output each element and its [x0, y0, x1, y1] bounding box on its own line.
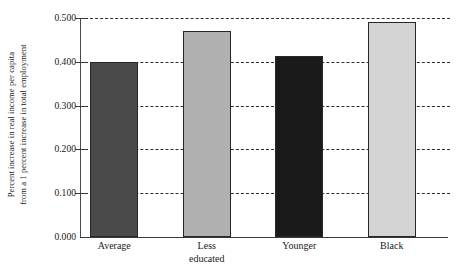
y-axis-tick-label: 0.300 [36, 101, 76, 111]
x-axis-tick-label: Younger [254, 240, 344, 253]
y-axis-title-line-1: Percent increase in real income per capi… [5, 45, 17, 205]
y-axis-tick-mark [75, 62, 86, 63]
x-axis-tick-label-line: Black [347, 240, 437, 253]
bar [183, 31, 231, 237]
plot-area [80, 18, 450, 237]
gridline [80, 18, 450, 19]
y-axis-tick-label: 0.200 [36, 144, 76, 154]
bar-chart: Percent increase in real income per capi… [0, 0, 457, 273]
x-axis-tick-label-line: educated [162, 253, 252, 266]
y-axis-tick-label: 0.400 [36, 57, 76, 67]
y-axis-tick-mark [75, 18, 86, 19]
y-axis-tick-mark [75, 193, 86, 194]
x-axis-tick-label: Average [69, 240, 159, 253]
x-axis-tick-labels: AverageLesseducatedYoungerBlack [80, 240, 450, 273]
y-axis-title: Percent increase in real income per capi… [0, 0, 34, 250]
y-axis-title-line-2: from a 1 percent increase in total emplo… [17, 45, 29, 205]
bar [90, 62, 138, 237]
y-axis-tick-labels: 0.0000.1000.2000.3000.4000.500 [31, 0, 76, 273]
y-axis-tick-mark [75, 106, 86, 107]
x-axis-tick-label-line: Average [69, 240, 159, 253]
y-axis-tick-mark [75, 149, 86, 150]
x-axis-baseline [80, 237, 448, 238]
x-axis-tick-label: Black [347, 240, 437, 253]
x-axis-tick-label: Lesseducated [162, 240, 252, 265]
bar [275, 56, 323, 237]
x-axis-tick-label-line: Younger [254, 240, 344, 253]
y-axis-tick-label: 0.100 [36, 188, 76, 198]
x-axis-tick-label-line: Less [162, 240, 252, 253]
bar [368, 22, 416, 237]
y-axis-tick-label: 0.500 [36, 13, 76, 23]
y-axis-line [80, 18, 81, 237]
